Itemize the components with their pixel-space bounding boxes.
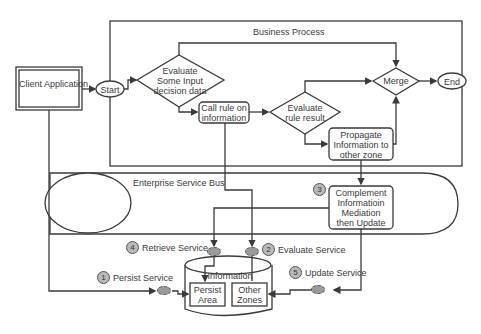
diagram-canvas xyxy=(0,0,481,334)
retrieve-gear-icon xyxy=(207,247,221,256)
end-label: End xyxy=(438,77,466,87)
persist-service-label: Persist Service xyxy=(113,273,173,283)
service-badge-3: 3 xyxy=(313,183,326,196)
update-gear-icon xyxy=(311,285,325,294)
service-badge-4: 4 xyxy=(126,241,139,254)
evaluate-service-label: Evaluate Service xyxy=(278,245,346,255)
esb-title: Enterprise Service Bus xyxy=(133,178,225,188)
esb-left-end xyxy=(45,173,131,233)
propagate-label: PropagateInformation toother zone xyxy=(329,130,393,160)
client-application-label: Client Application xyxy=(19,79,79,89)
merge-label: Merge xyxy=(376,76,416,86)
persist-gear-icon xyxy=(157,286,171,295)
service-badge-1: 1 xyxy=(97,271,110,284)
retrieve-service-label: Retrieve Service xyxy=(142,243,208,253)
persist-area-label: PersistArea xyxy=(190,285,225,305)
call-rule-label: Call rule oninformation xyxy=(199,103,249,123)
service-badge-2: 2 xyxy=(262,243,275,256)
information-label: Information xyxy=(205,271,255,281)
other-zones-label: OtherZones xyxy=(232,285,267,305)
evaluate-gear-icon xyxy=(245,247,259,256)
evaluate-input-label: EvaluateSome Inputdecision data xyxy=(150,66,210,96)
service-badge-5: 5 xyxy=(289,266,302,279)
complement-label: ComplementInformatioinMediationthen Upda… xyxy=(329,188,393,228)
business-process-title: Business Process xyxy=(253,27,325,37)
evaluate-rule-label: Evaluaterule result xyxy=(275,103,335,123)
update-service-label: Update Service xyxy=(305,268,367,278)
start-label: Start xyxy=(96,85,124,95)
